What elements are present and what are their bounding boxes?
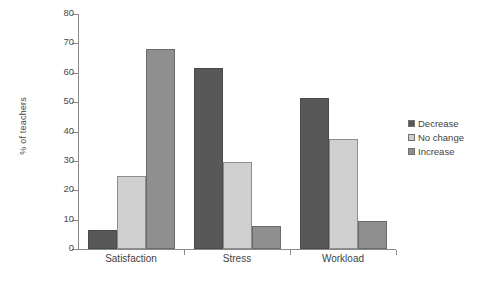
y-tick-label: 10 <box>63 213 74 224</box>
bar <box>300 98 329 249</box>
y-axis-title-text: % of teachers <box>18 97 28 155</box>
x-axis-category-label: Stress <box>194 253 281 264</box>
legend-item: Increase <box>408 145 492 158</box>
legend-item-label: Decrease <box>418 118 459 129</box>
bar <box>117 176 146 249</box>
bar <box>146 49 175 249</box>
x-tick-mark <box>396 250 397 255</box>
y-tick-label: 50 <box>63 95 74 106</box>
legend-swatch-icon <box>408 134 415 141</box>
bar-group <box>194 14 281 249</box>
x-axis-line <box>78 249 396 250</box>
y-tick-label: 20 <box>63 183 74 194</box>
bar <box>358 221 387 249</box>
bar <box>329 139 358 249</box>
bar-group <box>88 14 175 249</box>
y-axis-title: % of teachers <box>12 0 34 252</box>
legend-item-label: No change <box>418 132 464 143</box>
legend-item: Decrease <box>408 117 492 130</box>
bar-chart-figure: % of teachers 01020304050607080 Satisfac… <box>0 0 496 282</box>
plot-area: 01020304050607080 <box>78 14 396 250</box>
bar <box>252 226 281 250</box>
x-tick-mark <box>290 250 291 255</box>
legend-swatch-icon <box>408 148 415 155</box>
y-tick-label: 60 <box>63 66 74 77</box>
bar-group <box>300 14 387 249</box>
legend-item: No change <box>408 131 492 144</box>
y-tick-label: 70 <box>63 36 74 47</box>
y-tick-label: 0 <box>69 242 74 253</box>
x-tick-mark <box>184 250 185 255</box>
y-tick-label: 80 <box>63 7 74 18</box>
legend-item-label: Increase <box>418 146 454 157</box>
y-axis-line <box>78 14 79 250</box>
x-axis-category-label: Workload <box>300 253 387 264</box>
bar <box>223 162 252 249</box>
x-axis-category-label: Satisfaction <box>88 253 175 264</box>
y-tick-label: 40 <box>63 125 74 136</box>
legend-swatch-icon <box>408 120 415 127</box>
bar <box>88 230 117 249</box>
bar <box>194 68 223 249</box>
y-tick-label: 30 <box>63 154 74 165</box>
legend: DecreaseNo changeIncrease <box>408 117 492 159</box>
